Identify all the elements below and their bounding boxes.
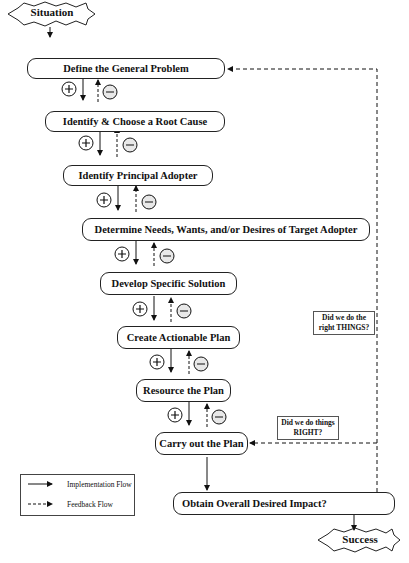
- legend-feedback: Feedback Flow: [67, 500, 113, 509]
- step-carry-out: Carry out the Plan: [155, 432, 248, 455]
- legend: Implementation Flow Feedback Flow: [20, 474, 135, 516]
- step-principal-adopter: Identify Principal Adopter: [63, 165, 213, 186]
- legend-implementation: Implementation Flow: [67, 480, 132, 489]
- end-success: Success: [330, 533, 390, 545]
- start-situation: Situation: [22, 6, 82, 18]
- step-actionable-plan: Create Actionable Plan: [117, 326, 240, 349]
- question-things-right: Did we do things RIGHT?: [277, 416, 339, 440]
- question-right-things: Did we do the right THINGS?: [313, 311, 375, 335]
- step-specific-solution: Develop Specific Solution: [100, 272, 237, 295]
- step-resource-plan: Resource the Plan: [136, 379, 231, 402]
- step-root-cause: Identify & Choose a Root Cause: [45, 111, 225, 132]
- decision-label: Obtain Overall Desired Impact?: [182, 498, 327, 509]
- step-define-problem: Define the General Problem: [27, 58, 225, 79]
- decision-overall-impact: Obtain Overall Desired Impact?: [173, 492, 395, 515]
- step-needs-wants: Determine Needs, Wants, and/or Desires o…: [82, 218, 370, 241]
